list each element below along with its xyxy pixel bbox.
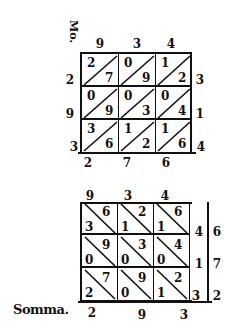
top-digit: 9 bbox=[94, 38, 106, 50]
top-digit: 3 bbox=[122, 190, 134, 202]
left-digit: 9 bbox=[64, 108, 76, 120]
lattice-cell: 1 2 bbox=[156, 54, 192, 87]
bottom-digit: 6 bbox=[160, 157, 172, 169]
lattice-cell: 2 7 bbox=[82, 54, 119, 87]
top-digit: 3 bbox=[131, 38, 143, 50]
sum-label: Somma. bbox=[13, 302, 69, 317]
lattice-cell: 6 1 bbox=[154, 202, 190, 235]
right-outer-digit: 7 bbox=[211, 258, 223, 270]
lattice-cell: 0 4 bbox=[156, 87, 192, 120]
left-digit: 2 bbox=[64, 74, 76, 86]
top-digit: 4 bbox=[159, 190, 171, 202]
lattice-cell: 9 0 bbox=[82, 235, 118, 268]
lattice-cell: 6 3 bbox=[82, 202, 118, 235]
top-digit: 9 bbox=[84, 190, 96, 202]
right-outer-digit: 2 bbox=[211, 290, 223, 302]
bottom-digit: 7 bbox=[121, 157, 133, 169]
margin-label: Mo. bbox=[67, 20, 80, 43]
lattice-cell: 3 0 bbox=[118, 235, 154, 268]
right-inner-digit: 4 bbox=[193, 226, 205, 238]
right-inner-digit: 1 bbox=[193, 258, 205, 270]
sum-digit: 3 bbox=[178, 309, 190, 321]
right-digit: 4 bbox=[195, 141, 207, 153]
lattice-grid-a: 2 7 0 9 1 2 0 9 0 3 0 4 bbox=[80, 52, 192, 154]
lattice-grid-b: 6 3 2 1 6 1 9 0 3 0 4 0 bbox=[80, 202, 192, 302]
lattice-cell: 0 9 bbox=[119, 54, 156, 87]
right-digit: 1 bbox=[194, 108, 206, 120]
lattice-cell: 7 2 bbox=[82, 268, 118, 300]
baseline-rule bbox=[78, 152, 196, 154]
lattice-cell: 1 2 bbox=[119, 120, 156, 152]
bottom-digit: 2 bbox=[82, 157, 94, 169]
outer-rule bbox=[207, 202, 209, 303]
lattice-cell: 0 9 bbox=[82, 87, 119, 120]
lattice-cell: 4 0 bbox=[154, 235, 190, 268]
sum-digit: 2 bbox=[86, 307, 98, 319]
lattice-cell: 1 6 bbox=[156, 120, 192, 152]
lattice-cell: 3 6 bbox=[82, 120, 119, 152]
sum-digit: 9 bbox=[136, 309, 148, 321]
lattice-cell: 2 1 bbox=[118, 202, 154, 235]
baseline-rule bbox=[78, 301, 212, 303]
lattice-cell: 2 1 bbox=[154, 268, 190, 300]
top-digit: 4 bbox=[165, 38, 177, 50]
lattice-cell: 9 0 bbox=[118, 268, 154, 300]
right-outer-digit: 6 bbox=[211, 226, 223, 238]
right-digit: 3 bbox=[194, 74, 206, 86]
lattice-cell: 0 3 bbox=[119, 87, 156, 120]
